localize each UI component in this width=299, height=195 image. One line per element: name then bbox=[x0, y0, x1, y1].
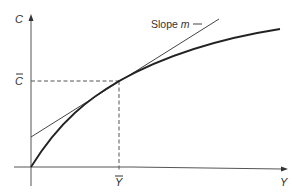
x-axis bbox=[132, 167, 282, 169]
y-axis-label: C bbox=[15, 13, 23, 25]
y-bar-label: Y bbox=[115, 176, 123, 188]
consumption-curve bbox=[31, 29, 280, 167]
slope-symbol: m bbox=[181, 18, 190, 30]
x-axis-arrow-icon bbox=[281, 167, 288, 172]
consumption-diagram: C C Y Y Slope m bbox=[0, 0, 299, 195]
slope-label: Slope m bbox=[151, 18, 190, 30]
x-axis-label: Y bbox=[280, 176, 288, 188]
y-axis-arrow-icon bbox=[29, 14, 34, 21]
c-bar-label: C bbox=[15, 75, 23, 87]
slope-text: Slope bbox=[151, 18, 181, 30]
